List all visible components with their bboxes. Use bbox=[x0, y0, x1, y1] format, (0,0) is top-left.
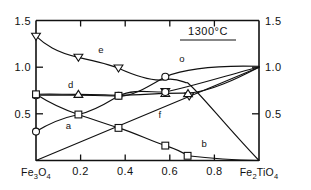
x-label-0.2: 0.2 bbox=[72, 165, 89, 177]
y-right-label-1.0: 1.0 bbox=[265, 61, 282, 73]
curve-label-e: e bbox=[98, 44, 103, 55]
marker-square-b-2 bbox=[115, 125, 122, 132]
x-label-0.6: 0.6 bbox=[162, 165, 179, 177]
composition-line-chart: 1.5 1.0 0.5 1.5 1.0 0.5 Fe3O4 0.2 0.4 0.… bbox=[0, 0, 311, 190]
y-axis-right-labels: 1.5 1.0 0.5 bbox=[265, 15, 282, 120]
marker-circle-o-3 bbox=[162, 73, 169, 80]
marker-circle-a-3 bbox=[162, 89, 169, 96]
curve-label-d: d bbox=[68, 79, 73, 90]
x-label-fe2tio4: Fe2TiO4 bbox=[240, 166, 279, 181]
curve-label-o: o bbox=[179, 53, 184, 64]
y-left-label-1.5: 1.5 bbox=[15, 15, 32, 27]
curve-label-a: a bbox=[66, 120, 72, 131]
marker-square-b-4 bbox=[184, 152, 191, 159]
marker-circle-a-0 bbox=[33, 128, 40, 135]
marker-triangle-down-e-2 bbox=[114, 65, 123, 72]
y-left-label-0.5: 0.5 bbox=[15, 108, 32, 120]
marker-square-b-1 bbox=[75, 111, 82, 118]
annotation-group: 1300°C bbox=[180, 25, 236, 40]
marker-square-cluster-mid bbox=[115, 92, 122, 99]
curve-label-b: b bbox=[202, 138, 207, 149]
temperature-annotation: 1300°C bbox=[188, 25, 228, 37]
x-label-0.4: 0.4 bbox=[117, 165, 134, 177]
curve-label-f: f bbox=[158, 109, 161, 120]
data-curves bbox=[36, 36, 259, 160]
curve-e bbox=[36, 36, 259, 160]
y-right-label-0.5: 0.5 bbox=[265, 108, 282, 120]
marker-square-b-3 bbox=[162, 142, 169, 149]
y-right-label-1.5: 1.5 bbox=[265, 15, 282, 27]
y-axis-ticks bbox=[36, 67, 259, 114]
y-left-label-1.0: 1.0 bbox=[15, 61, 32, 73]
x-label-0.8: 0.8 bbox=[206, 165, 223, 177]
y-axis-left-labels: 1.5 1.0 0.5 bbox=[15, 15, 32, 120]
x-label-fe3o4: Fe3O4 bbox=[21, 166, 51, 181]
x-axis-labels: Fe3O4 0.2 0.4 0.6 0.8 Fe2TiO4 bbox=[21, 165, 278, 181]
marker-square-b-0 bbox=[33, 91, 40, 98]
